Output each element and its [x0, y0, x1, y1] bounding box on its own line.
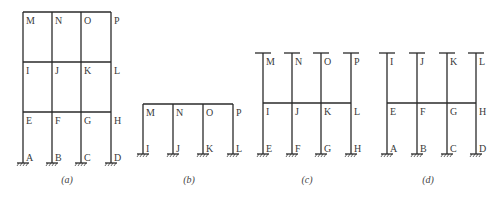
- node-label: F: [55, 115, 61, 126]
- fixed-support-icon: [257, 154, 357, 157]
- figure-d: I J K L E F G H A B C D (d): [379, 53, 486, 186]
- node-label: J: [55, 65, 59, 76]
- node-label: B: [55, 152, 62, 163]
- node-label: M: [26, 15, 35, 26]
- node-label: I: [390, 56, 393, 67]
- frame-a-members: [23, 12, 111, 163]
- node-label: P: [236, 107, 242, 118]
- figure-caption: (d): [422, 174, 434, 186]
- node-label: G: [324, 143, 331, 154]
- node-label: I: [26, 65, 29, 76]
- node-label: L: [479, 56, 485, 67]
- node-label: I: [146, 143, 149, 154]
- node-label: H: [114, 115, 121, 126]
- node-label: K: [206, 143, 214, 154]
- figure-caption: (b): [183, 174, 195, 186]
- figure-caption: (c): [301, 174, 313, 186]
- node-label: B: [420, 143, 427, 154]
- node-label: H: [479, 106, 486, 117]
- node-label: A: [26, 152, 34, 163]
- frame-d-members: [379, 53, 484, 154]
- node-label: J: [420, 56, 424, 67]
- fixed-support-icon: [17, 163, 117, 166]
- node-label: I: [266, 106, 269, 117]
- node-label: D: [479, 143, 486, 154]
- frame-substructure-diagram: M N O P I J K L E F G H A B C D (a) M N …: [0, 0, 497, 199]
- node-label: G: [450, 106, 457, 117]
- node-label: K: [450, 56, 458, 67]
- node-label: N: [176, 107, 183, 118]
- node-label: J: [295, 106, 299, 117]
- figure-caption: (a): [61, 174, 73, 186]
- fixed-support-icon: [381, 154, 482, 157]
- node-label: E: [26, 115, 32, 126]
- node-label: L: [236, 143, 242, 154]
- node-label: O: [324, 56, 331, 67]
- node-label: D: [114, 152, 121, 163]
- frame-c-members: [255, 53, 359, 154]
- node-label: C: [450, 143, 457, 154]
- node-label: H: [354, 143, 361, 154]
- node-label: N: [55, 15, 62, 26]
- node-label: K: [84, 65, 92, 76]
- node-label: L: [354, 106, 360, 117]
- figure-b: M N O P I J K L (b): [137, 104, 242, 186]
- node-label: M: [266, 56, 275, 67]
- node-label: F: [295, 143, 301, 154]
- node-label: O: [84, 15, 91, 26]
- node-label: J: [176, 143, 180, 154]
- figure-c: M N O P I J K L E F G H (c): [255, 53, 361, 186]
- figure-a: M N O P I J K L E F G H A B C D (a): [17, 12, 121, 186]
- fixed-support-icon: [137, 154, 239, 157]
- node-label: K: [324, 106, 332, 117]
- node-label: E: [266, 143, 272, 154]
- node-label: E: [390, 106, 396, 117]
- node-label: P: [114, 15, 120, 26]
- node-label: G: [84, 115, 91, 126]
- node-label: L: [114, 65, 120, 76]
- node-label: F: [420, 106, 426, 117]
- node-label: A: [390, 143, 398, 154]
- frame-b-members: [143, 104, 233, 154]
- node-label: O: [206, 107, 213, 118]
- node-label: P: [354, 56, 360, 67]
- node-label: N: [295, 56, 302, 67]
- node-label: M: [146, 107, 155, 118]
- node-label: C: [84, 152, 91, 163]
